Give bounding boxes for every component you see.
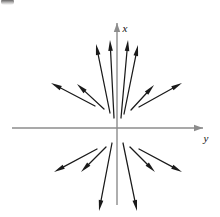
vector-arrow <box>54 149 97 172</box>
vector-arrowhead-icon <box>133 200 138 211</box>
axis-vertical-arrowhead-icon <box>114 23 120 32</box>
phase-portrait-plot: x y <box>0 0 220 217</box>
axes-group <box>12 23 203 205</box>
vector-arrow-shaft <box>110 46 114 118</box>
vector-arrow-shaft <box>97 50 110 113</box>
vector-arrow-shaft <box>123 143 136 205</box>
vector-arrow <box>123 143 137 211</box>
vector-arrow <box>77 84 104 109</box>
vector-arrowhead-icon <box>125 40 130 51</box>
vector-arrow-shaft <box>121 46 127 118</box>
vector-arrow-shaft <box>100 143 112 205</box>
axis-label-x: x <box>122 22 128 34</box>
vector-arrowhead-icon <box>134 45 139 56</box>
axis-label-y: y <box>203 132 209 144</box>
vector-arrow <box>131 85 154 110</box>
vector-arrow <box>139 149 182 172</box>
vector-arrowhead-icon <box>51 83 62 90</box>
axis-horizontal-arrowhead-icon <box>194 125 203 131</box>
vector-arrowhead-icon <box>96 44 101 55</box>
vector-arrow-shaft <box>139 86 177 107</box>
vector-arrowhead-icon <box>171 83 182 90</box>
vector-arrow <box>99 143 112 211</box>
vector-arrowhead-icon <box>54 165 65 172</box>
vector-arrowhead-icon <box>171 165 182 172</box>
vector-arrowhead-icon <box>99 200 104 211</box>
vector-arrow-shaft <box>139 149 177 169</box>
phase-portrait-figure: x y <box>0 0 220 217</box>
vector-arrow-shaft <box>59 149 97 169</box>
vector-arrowhead-icon <box>108 40 113 51</box>
